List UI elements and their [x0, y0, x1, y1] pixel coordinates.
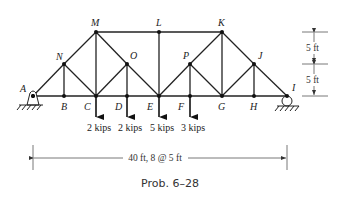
member-KJ: [222, 32, 254, 64]
joint-K: [220, 30, 224, 34]
member-MO: [96, 32, 127, 64]
member-JI: [254, 64, 287, 96]
height-dimension-bottom-label: 5 ft: [306, 75, 319, 85]
roller-support-icon: [275, 96, 299, 111]
member-EP: [159, 64, 190, 96]
load-label-F: 3 kips: [181, 122, 205, 133]
joint-label-J: J: [258, 50, 263, 61]
joint-E: [157, 94, 161, 98]
load-label-D: 2 kips: [118, 122, 142, 133]
joint-L: [157, 30, 161, 34]
member-NM: [64, 32, 96, 64]
joint-label-M: M: [90, 17, 100, 28]
figure-caption: Prob. 6–28: [141, 177, 199, 190]
joints: [31, 30, 289, 98]
joint-label-G: G: [218, 101, 225, 112]
joint-J: [252, 62, 256, 66]
span-dimension-label: 40 ft, 8 @ 5 ft: [128, 153, 182, 163]
joint-H: [252, 94, 256, 98]
load-label-C: 2 kips: [87, 122, 111, 133]
member-PG: [190, 64, 222, 96]
joint-label-P: P: [182, 50, 189, 61]
joint-label-K: K: [217, 17, 226, 28]
joint-label-C: C: [84, 101, 91, 112]
joint-label-D: D: [114, 101, 123, 112]
joint-G: [220, 94, 224, 98]
joint-label-A: A: [19, 83, 27, 94]
joint-label-H: H: [249, 101, 258, 112]
height-dimension-top-label: 5 ft: [306, 43, 319, 53]
truss-diagram: 2 kips2 kips5 kips3 kips ABCDEFGHINMOLKP…: [0, 0, 342, 199]
joint-C: [94, 94, 98, 98]
truss-members: [33, 32, 287, 96]
joint-D: [125, 94, 129, 98]
joint-M: [94, 30, 98, 34]
joint-label-N: N: [55, 51, 64, 62]
joint-label-I: I: [291, 82, 296, 93]
joint-B: [62, 94, 66, 98]
joint-F: [188, 94, 192, 98]
member-OE: [127, 64, 159, 96]
member-NC: [64, 64, 96, 96]
joint-label-L: L: [155, 17, 162, 28]
member-OC: [96, 64, 127, 96]
joint-O: [125, 62, 129, 66]
joint-label-F: F: [177, 101, 185, 112]
joint-label-O: O: [130, 50, 137, 61]
joint-label-B: B: [61, 101, 67, 112]
member-AN: [33, 64, 64, 96]
joint-A: [31, 94, 35, 98]
member-JG: [222, 64, 254, 96]
member-PK: [190, 32, 222, 64]
joint-P: [188, 62, 192, 66]
joint-I: [285, 94, 289, 98]
load-label-E: 5 kips: [150, 122, 174, 133]
height-dimension: [302, 32, 328, 96]
joint-N: [62, 62, 66, 66]
joint-label-E: E: [146, 101, 153, 112]
